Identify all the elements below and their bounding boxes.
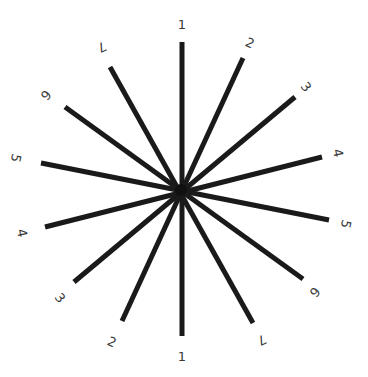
dial-label-4-b: 4	[14, 227, 30, 238]
astigmatism-dial: 11223344556677	[0, 0, 368, 377]
dial-label-2-a: 2	[243, 34, 257, 51]
dial-label-5-a: 5	[338, 218, 354, 229]
dial-label-6-b: 6	[38, 87, 55, 103]
dial-label-1-b: 1	[178, 349, 186, 364]
dial-label-3-a: 3	[298, 79, 315, 95]
dial-label-4-a: 4	[330, 147, 346, 158]
dial-label-2-b: 2	[105, 333, 119, 350]
dial-label-6-a: 6	[307, 284, 324, 300]
dial-label-7-b: 7	[95, 38, 109, 55]
dial-label-5-b: 5	[8, 152, 24, 163]
dial-label-7-a: 7	[255, 331, 269, 348]
dial-label-3-b: 3	[52, 290, 69, 306]
dial-label-1-a: 1	[178, 17, 186, 32]
dial-center-hub	[175, 184, 187, 196]
